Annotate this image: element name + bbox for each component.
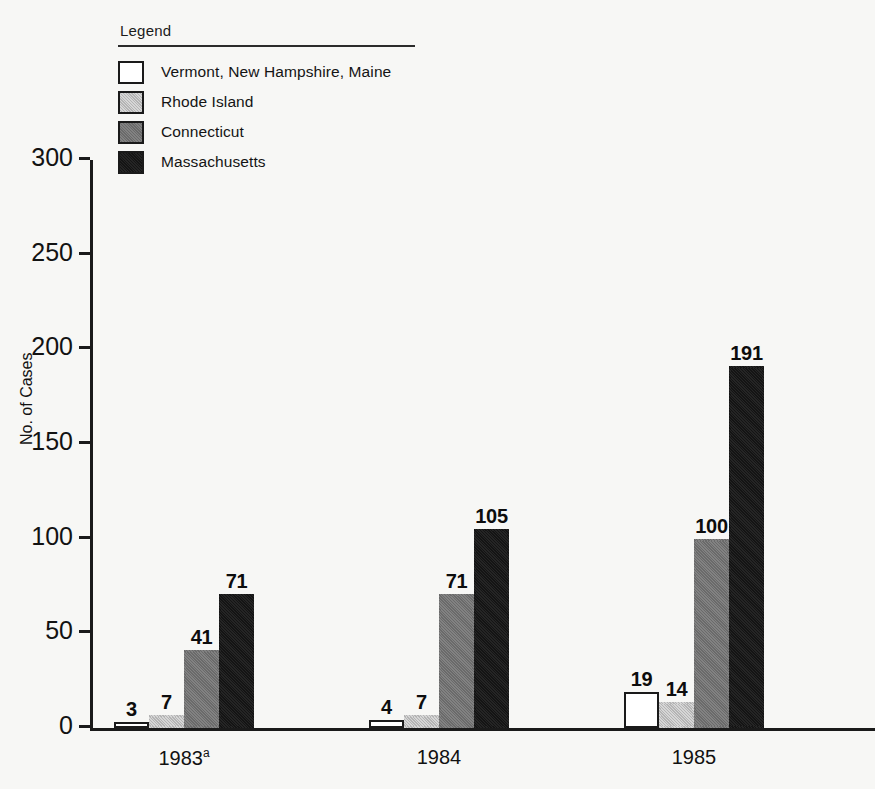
bar-rhode-island-1984: 7 bbox=[404, 715, 439, 728]
bar-value-label: 100 bbox=[695, 515, 727, 538]
chart-page: Legend Vermont, New Hampshire, Maine Rho… bbox=[0, 0, 875, 789]
bar-vt-nh-me-1985: 19 bbox=[624, 692, 659, 728]
bar-value-label: 14 bbox=[666, 678, 688, 701]
x-axis-label-1983a: 1983a bbox=[158, 746, 209, 770]
bar-vt-nh-me-1983a: 3 bbox=[114, 722, 149, 728]
legend-label-vt-nh-me: Vermont, New Hampshire, Maine bbox=[161, 63, 391, 81]
bar-value-label: 191 bbox=[730, 342, 762, 365]
legend-item-rhode-island: Rhode Island bbox=[118, 87, 418, 117]
bar-vt-nh-me-1984: 4 bbox=[369, 720, 404, 728]
bar-value-label: 41 bbox=[191, 626, 213, 649]
y-tick-0: 0 bbox=[79, 725, 90, 728]
legend: Legend Vermont, New Hampshire, Maine Rho… bbox=[118, 22, 418, 177]
y-tick-label-250: 250 bbox=[31, 238, 73, 267]
y-tick-100: 100 bbox=[79, 536, 90, 539]
legend-swatch-connecticut bbox=[118, 121, 144, 144]
y-tick-label-150: 150 bbox=[31, 427, 73, 456]
y-tick-label-50: 50 bbox=[45, 616, 73, 645]
bar-value-label: 7 bbox=[161, 691, 172, 714]
bar-value-label: 105 bbox=[475, 505, 507, 528]
bar-connecticut-1983a: 41 bbox=[184, 650, 219, 728]
legend-swatch-rhode-island bbox=[118, 91, 144, 114]
bar-connecticut-1985: 100 bbox=[694, 539, 729, 728]
bar-massachusetts-1985: 191 bbox=[729, 366, 764, 728]
y-tick-150: 150 bbox=[79, 441, 90, 444]
bar-value-label: 3 bbox=[126, 698, 137, 721]
bar-value-label: 71 bbox=[446, 570, 468, 593]
plot-area: No. of Cases 050100150200250300 37417147… bbox=[90, 160, 875, 728]
y-axis-line bbox=[90, 160, 93, 728]
y-tick-label-100: 100 bbox=[31, 522, 73, 551]
legend-item-connecticut: Connecticut bbox=[118, 117, 418, 147]
legend-divider bbox=[118, 45, 415, 47]
y-tick-300: 300 bbox=[79, 157, 90, 160]
bar-value-label: 4 bbox=[381, 696, 392, 719]
bar-massachusetts-1983a: 71 bbox=[219, 594, 254, 728]
legend-item-vt-nh-me: Vermont, New Hampshire, Maine bbox=[118, 57, 418, 87]
bar-rhode-island-1985: 14 bbox=[659, 702, 694, 729]
x-axis-label-1984: 1984 bbox=[417, 746, 462, 769]
bar-value-label: 7 bbox=[416, 691, 427, 714]
y-tick-250: 250 bbox=[79, 252, 90, 255]
y-tick-label-0: 0 bbox=[59, 711, 73, 740]
bar-value-label: 19 bbox=[631, 668, 653, 691]
legend-label-connecticut: Connecticut bbox=[161, 123, 244, 141]
bar-connecticut-1984: 71 bbox=[439, 594, 474, 728]
legend-swatch-vt-nh-me bbox=[118, 61, 144, 84]
bar-rhode-island-1983a: 7 bbox=[149, 715, 184, 728]
legend-label-rhode-island: Rhode Island bbox=[161, 93, 254, 111]
y-tick-50: 50 bbox=[79, 630, 90, 633]
x-axis-label-1985: 1985 bbox=[672, 746, 717, 769]
y-tick-200: 200 bbox=[79, 346, 90, 349]
legend-title: Legend bbox=[120, 22, 418, 39]
bar-value-label: 71 bbox=[226, 570, 248, 593]
y-tick-label-200: 200 bbox=[31, 332, 73, 361]
y-tick-label-300: 300 bbox=[31, 143, 73, 172]
x-axis-line bbox=[90, 728, 875, 731]
x-axis-label-footnote: a bbox=[203, 746, 210, 760]
bar-massachusetts-1984: 105 bbox=[474, 529, 509, 728]
